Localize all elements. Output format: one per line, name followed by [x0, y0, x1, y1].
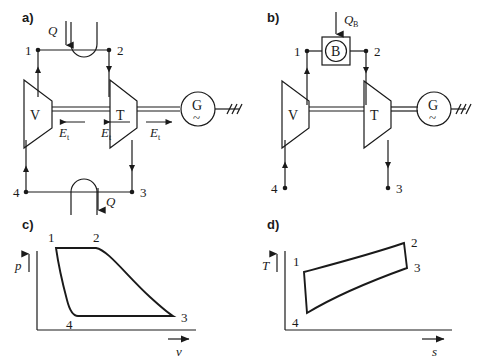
left-lower-arrow-b [282, 162, 288, 169]
node-dot-3-a [130, 190, 135, 195]
energy-subscript-2-a: t [109, 133, 112, 142]
panel-c: c) p v 1 2 3 4 [14, 217, 196, 359]
energy-symbol-1-a: E [58, 125, 67, 140]
node-label-1-a: 1 [25, 43, 32, 58]
c-y-axis-label: p [14, 258, 22, 273]
energy-symbol-2-a: E [100, 125, 109, 140]
node-label-2-b: 2 [374, 44, 381, 59]
energy-subscript-1-a: t [67, 133, 70, 142]
right-descender-arrow-a [106, 66, 112, 73]
d-point-label-2: 2 [411, 235, 418, 250]
generator-ac-symbol-b: ~ [429, 110, 436, 125]
c-point-label-1: 1 [48, 230, 55, 245]
cooler-u-tube [71, 179, 97, 215]
panel-b-label: b) [267, 10, 279, 25]
right-lower-arrow-a [129, 165, 135, 172]
combustor-letter-b: B [331, 44, 340, 59]
right-lower-arrow-b [385, 162, 391, 169]
generator-ac-symbol-a: ~ [193, 110, 200, 125]
c-point-label-3: 3 [181, 310, 188, 325]
grid-hatch-icon-b [456, 104, 471, 114]
node-dot-4-b [283, 186, 288, 191]
d-point-label-3: 3 [414, 260, 421, 275]
panel-a-label: a) [22, 10, 34, 25]
panel-c-label: c) [22, 217, 34, 232]
left-lower-arrow-a [23, 166, 29, 173]
heat-in-label-a: Q [48, 23, 58, 38]
heat-in-subscript-b: B [353, 20, 358, 29]
heat-out-label-a: Q [106, 194, 116, 209]
panel-d-label: d) [267, 217, 279, 232]
d-cycle-curve [304, 243, 407, 313]
energy-subscript-3-a: t [158, 133, 161, 142]
d-y-axis-label: T [262, 258, 270, 273]
left-riser-arrow-a [35, 67, 41, 74]
d-point-label-4: 4 [292, 315, 299, 330]
heat-in-label-b: Q B [344, 12, 358, 29]
node-label-4-b: 4 [271, 181, 278, 196]
figure-root: a) Q 1 2 V T G ~ [0, 0, 479, 364]
panel-b: b) Q B B 1 2 V T [267, 10, 471, 196]
panel-a: a) Q 1 2 V T G ~ [13, 10, 242, 215]
c-point-label-2: 2 [93, 230, 100, 245]
right-descender-arrow-b [363, 67, 369, 74]
energy-label-1-a: E t [58, 125, 70, 142]
compressor-v-letter-a: V [30, 108, 40, 123]
c-point-label-4: 4 [66, 317, 73, 332]
panel-d: d) T s 1 2 3 4 [262, 217, 452, 359]
left-riser-arrow-b [304, 68, 310, 75]
node-label-1-b: 1 [294, 44, 301, 59]
node-label-4-a: 4 [13, 185, 20, 200]
c-cycle-curve [56, 248, 173, 316]
node-dot-4-a [24, 190, 29, 195]
heater-u-tube [71, 22, 97, 57]
energy-label-3-a: E t [149, 125, 161, 142]
node-label-3-a: 3 [140, 185, 147, 200]
node-label-3-b: 3 [396, 181, 403, 196]
grid-hatch-icon-a [227, 104, 242, 114]
thermodynamics-figure: a) Q 1 2 V T G ~ [0, 0, 479, 364]
energy-symbol-3-a: E [149, 125, 158, 140]
turbine-t-letter-a: T [116, 108, 125, 123]
turbine-t-letter-b: T [370, 108, 379, 123]
compressor-v-letter-b: V [288, 108, 298, 123]
node-label-2-a: 2 [117, 43, 124, 58]
d-point-label-1: 1 [293, 254, 300, 269]
c-x-axis-label: v [176, 344, 182, 359]
node-dot-3-b [386, 186, 391, 191]
d-x-axis-label: s [432, 344, 437, 359]
